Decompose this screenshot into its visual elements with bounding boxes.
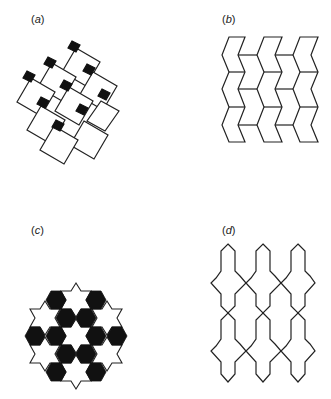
panel-c-tiling bbox=[25, 283, 127, 389]
figure-canvas bbox=[0, 0, 331, 399]
panel-b-tiling bbox=[222, 37, 318, 142]
panel-a-tiling bbox=[17, 41, 119, 164]
white-squares bbox=[17, 48, 119, 164]
panel-d-tiling bbox=[211, 244, 315, 382]
